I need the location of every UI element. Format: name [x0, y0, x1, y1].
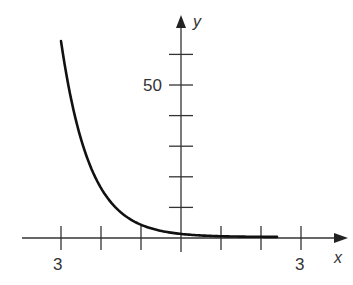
exponential-chart: 3 3 x 50 y [0, 0, 353, 285]
x-tick-label-neg3: 3 [53, 255, 62, 274]
y-axis-arrow-icon [176, 15, 186, 28]
y-axis-label: y [192, 13, 202, 30]
y-axis: 50 y [143, 13, 202, 252]
x-axis-arrow-icon [334, 233, 348, 243]
x-axis-label: x [333, 249, 343, 266]
x-tick-label-pos3: 3 [295, 255, 304, 274]
y-tick-label-50: 50 [143, 76, 162, 95]
